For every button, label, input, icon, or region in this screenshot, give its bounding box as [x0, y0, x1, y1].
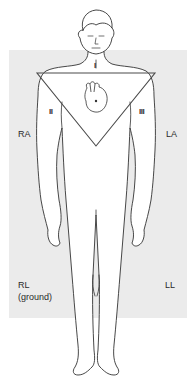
body-figure — [0, 0, 191, 387]
lead-label-ii: II — [49, 107, 52, 116]
electrode-label-ra: RA — [18, 129, 31, 139]
lead-label-i: I — [94, 61, 96, 70]
electrode-sublabel-ground: (ground) — [18, 292, 52, 302]
lead-label-iii: III — [139, 107, 144, 116]
head-outline — [78, 10, 114, 54]
electrode-label-la: LA — [166, 129, 177, 139]
electrode-label-rl: RL — [18, 280, 30, 290]
electrode-label-ll: LL — [165, 280, 175, 290]
